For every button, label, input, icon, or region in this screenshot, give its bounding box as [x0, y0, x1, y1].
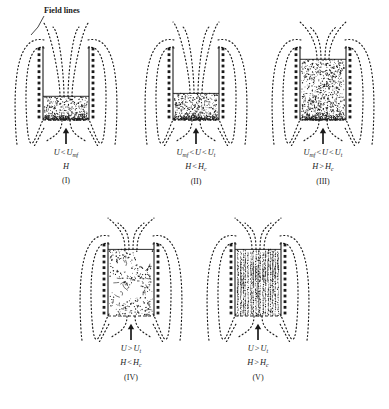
- panel-IV-figure: [67, 212, 195, 342]
- panel-III-caption: Umf<U<Ut H>Hc (III): [259, 146, 387, 189]
- gas-flow-arrow: [128, 324, 134, 340]
- field-lines-group: [80, 218, 182, 342]
- panel-III-velocity-condition: Umf<U<Ut: [259, 146, 387, 160]
- panel-V-caption: U>Ut H>Hc (V): [194, 342, 322, 385]
- panel-V-figure: [194, 212, 322, 342]
- field-lines-group: [272, 22, 374, 146]
- panel-IV-velocity-condition: U>Ut: [67, 342, 195, 356]
- panel-IV-number: (IV): [67, 370, 195, 385]
- gas-flow-arrow: [63, 128, 69, 144]
- panel-IV: U>Ut H<Hc (IV): [67, 212, 195, 385]
- panel-IV-caption: U>Ut H<Hc (IV): [67, 342, 195, 385]
- panel-II: Umf<U<Ut H<Hc (II): [132, 16, 260, 189]
- gas-flow-arrow: [320, 128, 326, 144]
- gas-flow-arrow: [193, 128, 199, 144]
- panel-I: U<Umf H (I): [2, 16, 130, 188]
- panel-II-number: (II): [132, 174, 260, 189]
- particle-bed: [174, 93, 218, 121]
- panel-I-field-condition: H: [2, 160, 130, 173]
- particle-bed: [301, 59, 345, 121]
- gas-flow-arrow: [255, 324, 261, 340]
- panel-I-diagram-svg: [2, 16, 130, 146]
- panel-III-diagram-svg: [259, 16, 387, 146]
- panel-II-diagram-svg: [132, 16, 260, 146]
- panel-IV-field-condition: H<Hc: [67, 356, 195, 370]
- panel-V-velocity-condition: U>Ut: [194, 342, 322, 356]
- particle-bed: [109, 249, 153, 317]
- panel-I-caption: U<Umf H (I): [2, 146, 130, 188]
- panel-II-field-condition: H<Hc: [132, 160, 260, 174]
- panel-III: Umf<U<Ut H>Hc (III): [259, 16, 387, 189]
- panel-III-number: (III): [259, 174, 387, 189]
- panel-IV-diagram-svg: [67, 212, 195, 342]
- panel-II-figure: [132, 16, 260, 146]
- panel-II-caption: Umf<U<Ut H<Hc (II): [132, 146, 260, 189]
- particle-bed: [237, 249, 279, 317]
- field-lines-group: [145, 22, 247, 146]
- panel-I-velocity-condition: U<Umf: [2, 146, 130, 160]
- panel-II-velocity-condition: Umf<U<Ut: [132, 146, 260, 160]
- panel-V-diagram-svg: [194, 212, 322, 342]
- panel-I-number: (I): [2, 173, 130, 188]
- panel-V-number: (V): [194, 370, 322, 385]
- panel-III-figure: [259, 16, 387, 146]
- panel-V: U>Ut H>Hc (V): [194, 212, 322, 385]
- field-lines-group: [15, 22, 117, 146]
- particle-bed: [44, 96, 88, 121]
- panel-I-figure: [2, 16, 130, 146]
- panel-V-field-condition: H>Hc: [194, 356, 322, 370]
- panel-III-field-condition: H>Hc: [259, 160, 387, 174]
